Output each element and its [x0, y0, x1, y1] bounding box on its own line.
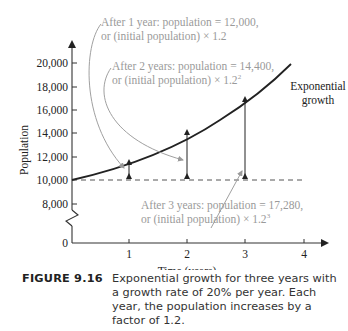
- x-tick-label: 1: [126, 248, 132, 260]
- y-ticks: 20,000 18,000 16,000 14,000 12,000 10,00…: [36, 57, 77, 249]
- caption-text: Exponential growth for three years with …: [112, 272, 342, 328]
- annotation-1-line1: After 1 year: population = 12,000,: [101, 16, 259, 29]
- series-label: Exponential growth: [290, 80, 346, 107]
- annotation-3-line2: or (initial population) × 1.23: [141, 212, 271, 226]
- y-tick-label: 14,000: [36, 127, 68, 140]
- figure-number: FIGURE 9.16: [22, 272, 103, 286]
- series-label-line1: Exponential: [290, 80, 346, 93]
- increase-arrows: [129, 99, 245, 176]
- y-axis: [66, 44, 78, 243]
- y-tick-label: 12,000: [36, 151, 68, 164]
- exponential-growth-chart: 20,000 18,000 16,000 14,000 12,000 10,00…: [0, 0, 348, 270]
- annotation-1-line2: or (initial population) × 1.2: [101, 30, 227, 43]
- x-axis-label: Time (years): [158, 265, 217, 270]
- y-tick-label: 10,000: [36, 174, 68, 187]
- annotation-3-line1: After 3 years: population = 17,280,: [141, 199, 303, 212]
- x-tick-label: 4: [301, 248, 307, 260]
- annotations: After 1 year: population = 12,000, or (i…: [101, 16, 303, 226]
- x-tick-label: 3: [242, 248, 248, 260]
- annotation-2-line2: or (initial population) × 1.22: [112, 73, 242, 87]
- x-ticks: 1 2 3 4: [126, 239, 307, 260]
- x-tick-label: 2: [184, 248, 190, 260]
- y-tick-label: 16,000: [36, 104, 68, 117]
- y-tick-label: 0: [62, 237, 68, 249]
- y-axis-label: Population: [18, 125, 31, 175]
- series-label-line2: growth: [302, 94, 335, 107]
- annotation-leaders: [89, 24, 242, 228]
- y-tick-label: 18,000: [36, 81, 68, 94]
- y-tick-label: 8,000: [42, 198, 68, 211]
- leader-year-1: [89, 24, 124, 168]
- y-tick-label: 20,000: [36, 57, 68, 70]
- annotation-2-line1: After 2 years: population = 14,400,: [112, 60, 274, 73]
- axis-break-icon: [66, 210, 78, 226]
